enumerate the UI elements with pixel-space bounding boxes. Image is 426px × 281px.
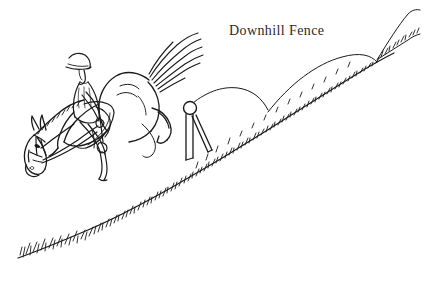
horse-ear-near <box>32 116 39 130</box>
ridge-line-right <box>378 34 420 59</box>
horse-hindquarters <box>99 73 149 131</box>
horse-nostril <box>30 167 34 170</box>
horse-croup-line <box>148 82 159 131</box>
bridle-noseband <box>30 152 42 157</box>
horse-hind-hoof <box>157 136 167 143</box>
rider-boot <box>99 152 102 179</box>
rider-boot-back <box>104 154 107 180</box>
fence-ball-finial <box>184 102 197 115</box>
rider-chin-strap <box>79 70 82 80</box>
illustration-page: Downhill Fence <box>0 0 426 281</box>
scene-illustration <box>0 0 426 281</box>
grass-tuft-group <box>20 28 419 257</box>
horse-neck-top <box>37 100 84 133</box>
rider-helmet-band <box>68 64 88 66</box>
horse-group <box>25 33 204 177</box>
bridle-noseband-side <box>28 150 29 162</box>
rider-helmet-brim <box>66 67 91 69</box>
horse-rump-curve <box>129 131 151 142</box>
rider-group <box>66 53 107 180</box>
rider-front <box>88 82 99 118</box>
bridle-bit <box>33 160 42 162</box>
rider-boot-foot <box>99 179 107 181</box>
hill-curve-mid <box>268 55 377 112</box>
horse-tail <box>149 33 203 92</box>
fence-group <box>184 102 213 161</box>
illustration-caption: Downhill Fence <box>229 24 324 38</box>
hill-curve-near <box>188 88 268 110</box>
fence-post <box>186 114 193 160</box>
fence-brace <box>192 115 212 152</box>
